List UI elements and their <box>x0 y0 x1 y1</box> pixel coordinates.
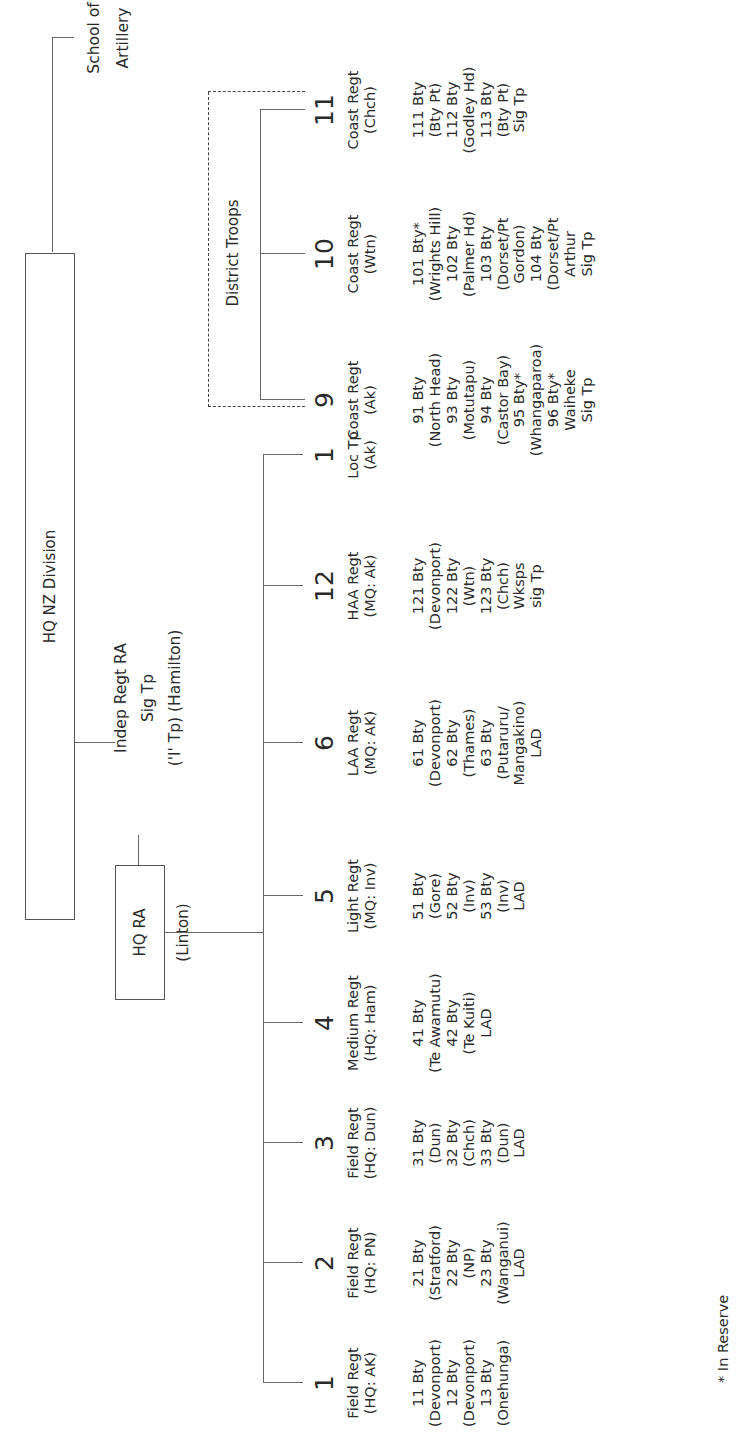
district-bus <box>260 110 261 400</box>
regiment-number: 1 <box>312 435 338 475</box>
regiment-name: Coast Regt (Wtn) <box>345 204 379 304</box>
district-troops-border-top <box>208 92 209 407</box>
regiment-name: LAA Regt (MQ: AK) <box>345 693 379 793</box>
regiment-subunits: 41 Bty (Te Awamutu) 42 Bty (Te Kuiti) LA… <box>410 963 495 1083</box>
hq-nz-division-box: HQ NZ Division <box>25 253 75 920</box>
tick-12-haa <box>263 585 303 586</box>
tick-1-loc <box>263 454 303 455</box>
connector-school-h <box>52 38 53 252</box>
regiment-number: 11 <box>312 90 338 130</box>
tick-1-field <box>263 1382 303 1383</box>
regiment-number: 10 <box>312 234 338 274</box>
regiment-number: 12 <box>312 566 338 606</box>
regiment-number: 1 <box>312 1363 338 1403</box>
regiment-subunits: 101 Bty* (Wrights Hill) 102 Bty (Palmer … <box>410 194 596 314</box>
regiment-name: Medium Regt (HQ: Ham) <box>345 968 379 1078</box>
district-troops-label: District Troops <box>225 173 242 333</box>
regiment-subunits: 111 Bty (Bty Pt) 112 Bty (Godley Hd) 113… <box>410 50 528 170</box>
connector-hqra-bus <box>165 932 263 933</box>
org-chart: HQ NZ Division School of Artillery HQ RA… <box>0 0 748 1443</box>
hq-nz-division-label: HQ NZ Division <box>42 254 59 919</box>
regiment-subunits: 61 Bty (Devonport) 62 Bty (Thames) 63 Bt… <box>410 688 545 798</box>
regiment-number: 9 <box>312 380 338 420</box>
tick-4-medium <box>263 1022 303 1023</box>
footnote-in-reserve: * In Reserve <box>715 1295 731 1383</box>
school-of-artillery-label: School of Artillery <box>80 0 138 88</box>
regiment-name: Field Regt (HQ: PN) <box>345 1213 379 1313</box>
regiment-name: Light Regt (MQ: Inv) <box>345 846 379 946</box>
regiment-subunits: 91 Bty (North Head) 93 Bty (Motutapu) 94… <box>410 340 596 460</box>
regiment-name: HAA Regt (MQ: Ak) <box>345 536 379 636</box>
tick-coast-9 <box>260 399 305 400</box>
regiment-subunits: 31 Bty (Dun) 32 Bty (Chch) 33 Bty (Dun) … <box>410 1088 528 1198</box>
regiment-subunits: 121 Bty (Devonport) 122 Bty (Wtn) 123 Bt… <box>410 531 545 641</box>
regiment-subunits: 11 Bty (Devonport) 12 Bty (Devonport) 13… <box>410 1328 511 1438</box>
district-troops-border-right <box>208 91 305 92</box>
indep-regt-label: Indep Regt RA Sig Tp ('I' Tp) (Hamilton) <box>108 613 189 923</box>
regiment-subunits: 51 Bty (Gore) 52 Bty (Inv) 53 Bty (Inv) … <box>410 841 528 951</box>
regiment-name: Coast Regt (Ak) <box>345 350 379 450</box>
tick-6-laa <box>263 742 303 743</box>
regiment-number: 2 <box>312 1243 338 1283</box>
regiment-name: Field Regt (HQ: Dun) <box>345 1093 379 1193</box>
regiment-name: Coast Regt (Chch) <box>345 60 379 160</box>
main-bus <box>263 455 264 1383</box>
tick-5-light <box>263 895 303 896</box>
tick-2-field <box>263 1262 303 1263</box>
regiment-number: 5 <box>312 876 338 916</box>
connector-school-down <box>52 37 74 38</box>
regiment-number: 3 <box>312 1123 338 1163</box>
tick-coast-11 <box>260 109 305 110</box>
district-troops-border-left <box>208 406 305 407</box>
tick-3-field <box>263 1142 303 1143</box>
regiment-number: 6 <box>312 723 338 763</box>
regiment-name: Field Regt (HQ: AK) <box>345 1333 379 1433</box>
regiment-subunits: 21 Bty (Stratford) 22 Bty (NP) 23 Bty (W… <box>410 1208 528 1318</box>
regiment-number: 4 <box>312 1003 338 1043</box>
tick-coast-10 <box>260 253 305 254</box>
